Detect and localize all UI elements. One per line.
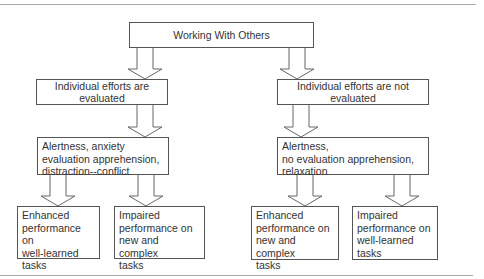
outcome-line: Enhanced bbox=[256, 209, 334, 222]
arrow-state-to-enhanced-right bbox=[288, 175, 322, 206]
state-line: Alertness, anxiety bbox=[42, 140, 164, 153]
outcome-line: performance on bbox=[256, 222, 334, 235]
state-line: Alertness, bbox=[282, 140, 424, 153]
outcome-box-impaired-new-complex: Impaired performance on new and complex … bbox=[114, 206, 205, 259]
state-box-not-evaluated: Alertness, no evaluation apprehension, r… bbox=[277, 137, 429, 175]
outcome-box-enhanced-new-complex: Enhanced performance on new and complex … bbox=[251, 206, 339, 260]
state-line: no evaluation apprehension, bbox=[282, 153, 424, 166]
arrow-state-to-impaired-left bbox=[129, 175, 163, 206]
state-line: relaxation bbox=[282, 165, 424, 178]
bottom-rule bbox=[0, 275, 473, 276]
outcome-line: performance on bbox=[357, 222, 433, 235]
outcome-line: Enhanced bbox=[22, 209, 95, 222]
state-line: evaluation apprehension, bbox=[42, 153, 164, 166]
arrow-not-evaluated-to-state bbox=[284, 105, 318, 137]
condition-line: evaluated bbox=[330, 92, 376, 105]
condition-line: Individual efforts are bbox=[55, 80, 149, 93]
condition-line: Individual efforts are not bbox=[297, 80, 409, 93]
outcome-line: tasks bbox=[256, 259, 334, 272]
state-line: distraction--conflict bbox=[42, 165, 164, 178]
root-label: Working With Others bbox=[173, 29, 270, 42]
arrow-evaluated-to-state bbox=[128, 105, 162, 137]
arrow-root-to-not-evaluated bbox=[280, 48, 314, 79]
arrow-state-to-impaired-right bbox=[385, 175, 419, 206]
outcome-line: new and complex bbox=[119, 234, 200, 259]
outcome-line: Impaired bbox=[119, 209, 200, 222]
condition-box-evaluated: Individual efforts are evaluated bbox=[36, 79, 168, 105]
outcome-line: tasks bbox=[119, 259, 200, 272]
outcome-line: new and complex bbox=[256, 234, 334, 259]
outcome-line: well-learned bbox=[22, 247, 95, 260]
state-box-evaluated: Alertness, anxiety evaluation apprehensi… bbox=[37, 137, 169, 175]
outcome-line: tasks bbox=[22, 259, 95, 272]
condition-line: evaluated bbox=[79, 92, 125, 105]
outcome-line: Impaired bbox=[357, 209, 433, 222]
outcome-line: tasks bbox=[357, 247, 433, 260]
root-box: Working With Others bbox=[129, 22, 314, 48]
arrow-state-to-enhanced-left bbox=[41, 175, 75, 206]
outcome-box-impaired-well-learned: Impaired performance on well-learned tas… bbox=[352, 206, 438, 260]
arrow-root-to-evaluated bbox=[128, 48, 162, 79]
outcome-line: performance on bbox=[119, 222, 200, 235]
condition-box-not-evaluated: Individual efforts are not evaluated bbox=[277, 79, 429, 105]
outcome-box-enhanced-well-learned: Enhanced performance on well-learned tas… bbox=[17, 206, 100, 259]
outcome-line: well-learned bbox=[357, 234, 433, 247]
outcome-line: performance on bbox=[22, 222, 95, 247]
